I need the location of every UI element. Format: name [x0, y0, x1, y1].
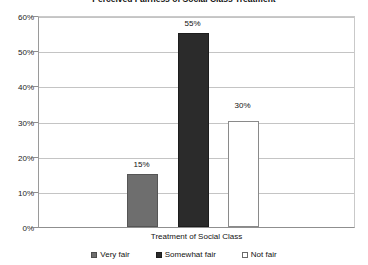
bar-very-fair: [127, 174, 158, 227]
x-axis-title: Treatment of Social Class: [38, 232, 355, 241]
y-tick-label-10: 10%: [4, 189, 34, 198]
legend-label: Not fair: [251, 250, 277, 259]
bar-label-not-fair: 30%: [234, 101, 250, 110]
chart-legend: Very fair Somewhat fair Not fair: [0, 250, 368, 259]
legend-swatch-icon: [156, 252, 162, 258]
y-tick-mark: [33, 16, 38, 17]
legend-item-somewhat-fair: Somewhat fair: [156, 250, 216, 259]
y-tick-mark: [33, 157, 38, 158]
gridline: [39, 17, 354, 18]
bar-label-very-fair: 15%: [133, 160, 149, 169]
y-tick-mark: [33, 86, 38, 87]
bar-label-somewhat-fair: 55%: [184, 19, 200, 28]
y-tick-label-0: 0%: [4, 224, 34, 233]
legend-label: Somewhat fair: [165, 250, 216, 259]
chart-title: Perceived Fairness of Social Class Treat…: [0, 0, 368, 4]
y-tick-label-20: 20%: [4, 153, 34, 162]
y-tick-label-40: 40%: [4, 83, 34, 92]
legend-item-not-fair: Not fair: [242, 250, 277, 259]
y-tick-mark: [33, 227, 38, 228]
legend-item-very-fair: Very fair: [91, 250, 129, 259]
bar-somewhat-fair: [178, 33, 209, 227]
legend-swatch-icon: [91, 252, 97, 258]
y-tick-label-30: 30%: [4, 118, 34, 127]
legend-swatch-icon: [242, 252, 248, 258]
bar-chart: Perceived Fairness of Social Class Treat…: [0, 0, 368, 265]
y-tick-mark: [33, 192, 38, 193]
y-tick-label-60: 60%: [4, 13, 34, 22]
bar-not-fair: [228, 121, 259, 227]
y-tick-mark: [33, 51, 38, 52]
plot-area: [38, 16, 355, 228]
legend-label: Very fair: [100, 250, 129, 259]
y-tick-mark: [33, 122, 38, 123]
y-tick-label-50: 50%: [4, 48, 34, 57]
